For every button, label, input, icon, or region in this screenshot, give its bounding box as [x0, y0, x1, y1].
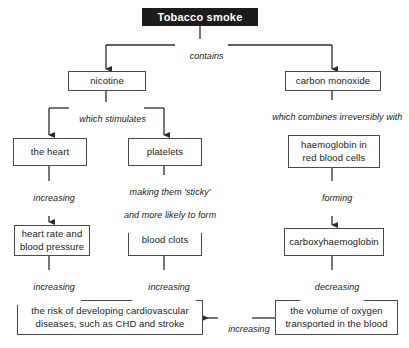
edge-label-which-stimulates: which stimulates — [69, 102, 144, 137]
edge-label-contains-text: contains — [190, 51, 224, 61]
node-risk-label-line1: the risk of developing cardiovascular — [31, 305, 188, 318]
edge-label-increasing-risk-mid: increasing — [132, 270, 196, 305]
edge-label-making-sticky-line2: and more likely to form — [124, 210, 216, 220]
edge-label-which-combines: which combines irreversibly with — [262, 100, 402, 135]
node-haemoglobin-label-line2: red blood cells — [303, 152, 366, 165]
node-carbon-monoxide: carbon monoxide — [285, 71, 381, 91]
node-carbon-monoxide-label: carbon monoxide — [296, 75, 370, 88]
node-oxygen-volume: the volume of oxygen transported in the … — [275, 300, 398, 335]
flowchart-diagram: Tobacco smoke nicotine carbon monoxide t… — [0, 0, 409, 348]
node-heart-rate-label-line1: heart rate and — [22, 228, 83, 241]
edge-label-decreasing-text: decreasing — [315, 282, 360, 292]
node-oxygen-label-line2: transported in the blood — [285, 318, 387, 331]
edge-label-forming: forming — [303, 181, 361, 216]
node-carboxyhaemoglobin-label: carboxyhaemoglobin — [289, 236, 378, 249]
edge-label-increasing-oxygen: increasing — [218, 312, 252, 347]
edge-label-making-sticky-line1: making them 'sticky' — [130, 187, 211, 197]
edge-label-contains: contains — [175, 39, 228, 74]
node-nicotine-label: nicotine — [90, 75, 124, 88]
edge-label-increasing-heart-text: increasing — [33, 193, 75, 203]
node-heart-rate-blood-pressure: heart rate and blood pressure — [14, 225, 90, 256]
edge-label-increasing-heart: increasing — [17, 181, 81, 216]
node-haemoglobin: haemoglobin in red blood cells — [288, 135, 380, 168]
node-the-heart: the heart — [13, 138, 87, 166]
node-haemoglobin-label-line1: haemoglobin in — [301, 139, 367, 152]
edge-label-which-combines-text: which combines irreversibly with — [272, 112, 402, 122]
node-tobacco-smoke-label: Tobacco smoke — [158, 11, 243, 24]
node-cardiovascular-risk: the risk of developing cardiovascular di… — [17, 300, 203, 335]
edge-label-increasing-risk-left-text: increasing — [33, 282, 75, 292]
node-heart-rate-label-line2: blood pressure — [20, 241, 84, 254]
edge-label-increasing-risk-left: increasing — [17, 270, 81, 305]
edge-label-which-stimulates-text: which stimulates — [79, 114, 146, 124]
edge-label-decreasing: decreasing — [300, 270, 364, 305]
edge-label-increasing-oxygen-text: increasing — [228, 324, 270, 334]
node-oxygen-label-line1: the volume of oxygen — [290, 305, 382, 318]
edge-label-making-sticky: making them 'sticky' and more likely to … — [110, 175, 220, 233]
node-platelets: platelets — [128, 138, 202, 166]
node-the-heart-label: the heart — [31, 146, 69, 159]
edge-label-increasing-risk-mid-text: increasing — [148, 282, 190, 292]
edge-label-forming-text: forming — [322, 193, 352, 203]
node-tobacco-smoke: Tobacco smoke — [142, 8, 258, 26]
node-carboxyhaemoglobin: carboxyhaemoglobin — [284, 228, 384, 256]
node-risk-label-line2: diseases, such as CHD and stroke — [36, 318, 185, 331]
node-nicotine: nicotine — [68, 71, 146, 91]
node-blood-clots-label: blood clots — [142, 234, 189, 247]
node-platelets-label: platelets — [147, 146, 183, 159]
